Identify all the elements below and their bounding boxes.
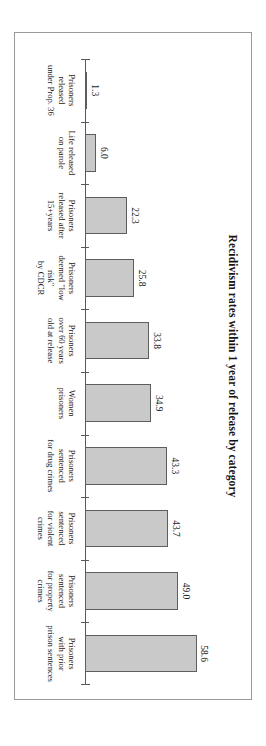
bar-category-label: Prisoners with prior prison sentences: [27, 622, 81, 685]
bar-value-label: 33.8: [151, 332, 161, 349]
bar-category-label: Prisoners sentenced for violent crimes: [27, 497, 81, 560]
bar-value-label: 6.0: [98, 147, 108, 159]
bar-rect[interactable]: [85, 72, 87, 110]
bar-category-label: Prisoners sentenced for property crimes: [27, 560, 81, 623]
bar-value-label: 25.8: [136, 270, 146, 287]
bar-category-6[interactable]: 34.9Women prisoners: [27, 372, 217, 435]
bar-column: 22.3: [85, 184, 139, 247]
bar-column: 49.0: [85, 560, 190, 623]
bar-value-label: 49.0: [180, 583, 190, 600]
bar-rect[interactable]: [85, 635, 197, 673]
bar-value-label: 1.3: [89, 84, 99, 96]
bar-category-10[interactable]: 58.6Prisoners with prior prison sentence…: [27, 622, 217, 685]
bar-rect[interactable]: [85, 134, 96, 172]
bar-category-label: Prisoners released after 15+years: [27, 184, 81, 247]
bar-value-label: 43.3: [169, 458, 179, 475]
plot-area: 1.3Prisoners released under Prop. 366.0L…: [27, 59, 217, 685]
bar-rect[interactable]: [85, 197, 127, 235]
bar-category-label: Prisoners over 60 years old at release: [27, 309, 81, 372]
bar-category-label: Prisoners sentenced for drug crimes: [27, 435, 81, 498]
bar-column: 6.0: [85, 122, 108, 185]
bar-category-label: Prisoners released under Prop. 36: [27, 59, 81, 122]
bar-category-7[interactable]: 43.3Prisoners sentenced for drug crimes: [27, 435, 217, 498]
bar-series: 1.3Prisoners released under Prop. 366.0L…: [27, 59, 217, 685]
bar-value-label: 43.7: [170, 520, 180, 537]
bar-column: 34.9: [85, 372, 163, 435]
bar-category-label: Life released on parole: [27, 122, 81, 185]
bar-column: 43.7: [85, 497, 180, 560]
bar-rect[interactable]: [85, 259, 134, 297]
chart-frame: Recidivism rates within 1 year of releas…: [14, 32, 252, 700]
bar-rect[interactable]: [85, 447, 167, 485]
bar-column: 1.3: [85, 59, 99, 122]
bar-rect[interactable]: [85, 510, 168, 548]
bar-value-label: 34.9: [153, 395, 163, 412]
bar-column: 25.8: [85, 247, 146, 310]
bar-column: 33.8: [85, 309, 161, 372]
bar-column: 43.3: [85, 435, 179, 498]
bar-category-4[interactable]: 25.8Prisoners deemed "low risk" by CDCR: [27, 247, 217, 310]
bar-rect[interactable]: [85, 572, 178, 610]
bar-category-2[interactable]: 6.0Life released on parole: [27, 122, 217, 185]
bar-value-label: 58.6: [199, 645, 209, 662]
bar-rect[interactable]: [85, 322, 149, 360]
bar-rect[interactable]: [85, 384, 151, 422]
bar-category-5[interactable]: 33.8Prisoners over 60 years old at relea…: [27, 309, 217, 372]
chart-title: Recidivism rates within 1 year of releas…: [227, 33, 239, 699]
bar-category-3[interactable]: 22.3Prisoners released after 15+years: [27, 184, 217, 247]
bar-category-9[interactable]: 49.0Prisoners sentenced for property cri…: [27, 560, 217, 623]
bar-category-label: Women prisoners: [27, 372, 81, 435]
bar-category-8[interactable]: 43.7Prisoners sentenced for violent crim…: [27, 497, 217, 560]
bar-category-label: Prisoners deemed "low risk" by CDCR: [27, 247, 81, 310]
bar-category-1[interactable]: 1.3Prisoners released under Prop. 36: [27, 59, 217, 122]
bar-value-label: 22.3: [129, 207, 139, 224]
chart-figure: Recidivism rates within 1 year of releas…: [0, 0, 266, 746]
bar-column: 58.6: [85, 622, 208, 685]
